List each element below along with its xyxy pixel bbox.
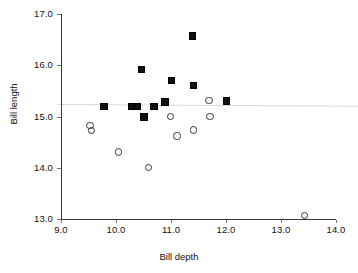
y-tick-label: 14.0 bbox=[19, 162, 53, 173]
y-tick-mark bbox=[57, 168, 61, 169]
data-point-open-circle bbox=[206, 113, 213, 120]
data-point-filled-square bbox=[161, 98, 168, 105]
data-point-filled-square bbox=[140, 113, 147, 120]
x-tick-label: 11.0 bbox=[154, 224, 188, 235]
data-point-filled-square bbox=[138, 66, 145, 73]
x-tick-mark bbox=[281, 220, 282, 223]
data-point-filled-square bbox=[100, 103, 107, 110]
x-tick-label: 12.0 bbox=[209, 224, 243, 235]
data-point-filled-square bbox=[134, 103, 141, 110]
data-point-open-circle bbox=[145, 164, 152, 171]
data-point-filled-square bbox=[190, 82, 197, 89]
data-point-filled-square bbox=[189, 32, 196, 39]
y-tick-label: 16.0 bbox=[19, 59, 53, 70]
y-tick-mark bbox=[57, 65, 61, 66]
y-tick-label: 17.0 bbox=[19, 8, 53, 19]
x-axis-label: Bill depth bbox=[0, 251, 358, 262]
data-point-open-circle bbox=[205, 97, 212, 104]
data-point-open-circle bbox=[190, 126, 197, 133]
x-tick-mark bbox=[226, 220, 227, 223]
data-point-open-circle bbox=[173, 132, 180, 139]
data-point-open-circle bbox=[115, 148, 122, 155]
y-tick-label: 15.0 bbox=[19, 111, 53, 122]
x-axis-line bbox=[61, 219, 336, 220]
data-point-filled-square bbox=[223, 97, 230, 104]
data-point-filled-square bbox=[150, 103, 157, 110]
data-point-open-circle bbox=[301, 212, 308, 219]
x-tick-mark bbox=[116, 220, 117, 223]
x-tick-label: 14.0 bbox=[319, 224, 353, 235]
scatter-plot-figure: 13.014.015.016.017.0 9.010.011.012.013.0… bbox=[0, 0, 358, 273]
x-tick-label: 10.0 bbox=[99, 224, 133, 235]
y-axis-line bbox=[61, 14, 62, 220]
y-tick-mark bbox=[57, 117, 61, 118]
x-tick-label: 9.0 bbox=[44, 224, 78, 235]
y-axis-label: Bill length bbox=[8, 83, 19, 124]
x-tick-mark bbox=[171, 220, 172, 223]
y-tick-mark bbox=[57, 14, 61, 15]
data-point-open-circle bbox=[88, 127, 95, 134]
y-axis-label-wrapper: Bill length bbox=[3, 54, 21, 154]
x-tick-label: 13.0 bbox=[264, 224, 298, 235]
x-tick-mark bbox=[61, 220, 62, 223]
data-point-filled-square bbox=[168, 77, 175, 84]
y-tick-label: 13.0 bbox=[19, 213, 53, 224]
data-point-open-circle bbox=[167, 113, 174, 120]
x-tick-mark bbox=[336, 220, 337, 223]
